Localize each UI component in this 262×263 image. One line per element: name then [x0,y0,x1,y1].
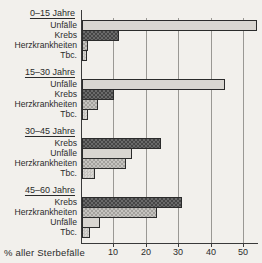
x-tick-label: 20 [141,247,151,257]
group-title: 30–45 Jahre [0,126,82,138]
bar-label: Tbc. [0,109,82,120]
age-group-30-45: 30–45 Jahre Krebs Unfälle Herzkrankheite… [0,126,262,179]
bar-row: Tbc. [0,50,262,61]
bar [82,50,87,61]
x-axis-caption: % aller Sterbefälle [4,247,85,258]
bar-label: Tbc. [0,227,82,238]
group-title: 0–15 Jahre [0,8,82,20]
x-tick-label: 30 [173,247,183,257]
bar [82,168,95,179]
bar-row: Tbc. [0,168,262,179]
x-tick-label: 50 [238,247,248,257]
age-group-45-60: 45–60 Jahre Krebs Herzkrankheiten Unfäll… [0,185,262,238]
x-tick-label: 10 [108,247,118,257]
bar [82,227,90,238]
group-title: 15–30 Jahre [0,67,82,79]
bar [82,109,88,120]
age-group-15-30: 15–30 Jahre Unfälle Krebs Herzkrankheite… [0,67,262,120]
x-tick-label: 40 [206,247,216,257]
bar-row: Tbc. [0,109,262,120]
bar-chart-figure: 10 20 30 40 50 % aller Sterbefälle 0–15 … [0,0,262,263]
bar-row: Tbc. [0,227,262,238]
bar-label: Tbc. [0,168,82,179]
group-title: 45–60 Jahre [0,185,82,197]
age-group-0-15: 0–15 Jahre Unfälle Krebs Herzkrankheiten… [0,8,262,61]
bar-label: Tbc. [0,50,82,61]
